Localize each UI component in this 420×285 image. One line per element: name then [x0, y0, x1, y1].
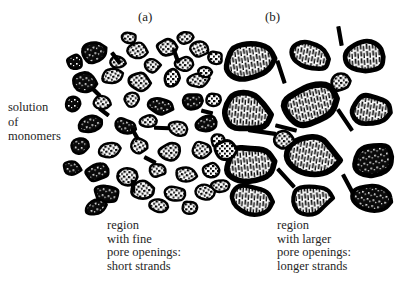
- strand-a-0: [110, 51, 122, 65]
- strand-a-2: [98, 107, 110, 118]
- figure-root: (a) (b) solution of monomers: [0, 0, 420, 285]
- particle-a-26: [117, 167, 138, 186]
- caption-left-line-2: with fine: [107, 233, 181, 247]
- particles-region-a: [62, 31, 230, 216]
- strand-a-7: [91, 87, 102, 98]
- particle-a-8: [186, 72, 210, 90]
- caption-region-a: region with fine pore openings: short st…: [107, 219, 181, 273]
- particle-a-34: [67, 55, 82, 69]
- particle-a-3: [188, 39, 211, 60]
- particle-a-9: [198, 67, 212, 77]
- particle-a-45: [211, 179, 231, 193]
- particle-a-0: [80, 39, 109, 65]
- particle-a-2: [157, 38, 178, 56]
- particle-b-6: [225, 144, 277, 183]
- particle-a-42: [66, 97, 80, 112]
- particle-a-44: [212, 134, 225, 146]
- particle-a-18: [168, 120, 188, 136]
- particle-a-30: [93, 184, 119, 204]
- particle-a-20: [71, 138, 90, 155]
- particle-b-11: [350, 181, 394, 214]
- strand-a-6: [131, 180, 136, 192]
- particle-a-46: [121, 32, 136, 44]
- strand-b-1: [336, 108, 354, 132]
- particle-a-31: [130, 179, 155, 200]
- strand-a-3: [130, 127, 140, 140]
- strands-region-b: [248, 26, 355, 195]
- particle-a-43: [62, 160, 83, 177]
- particle-a-12: [146, 96, 174, 117]
- particle-a-40: [149, 198, 169, 213]
- particle-b-9: [231, 185, 275, 217]
- particle-a-38: [208, 52, 221, 64]
- particle-b-2: [344, 40, 384, 72]
- strand-b-6: [336, 26, 344, 46]
- strand-b-0: [275, 60, 286, 84]
- particle-a-1: [126, 40, 149, 60]
- particle-field: [0, 0, 420, 285]
- particle-a-14: [206, 94, 220, 106]
- side-label-line-1: solution: [8, 100, 61, 115]
- strand-b-5: [341, 173, 355, 194]
- particle-a-24: [192, 141, 213, 160]
- side-label-line-2: of: [8, 115, 61, 130]
- particle-b-5: [351, 94, 393, 127]
- caption-left-line-4: short strands: [107, 260, 181, 274]
- particle-b-0: [223, 40, 277, 81]
- particle-a-5: [100, 66, 124, 85]
- caption-right-line-1: region: [277, 219, 351, 233]
- particle-a-7: [165, 69, 180, 86]
- strand-a-1: [171, 48, 180, 64]
- particle-a-13: [182, 93, 203, 110]
- particle-b-3: [223, 91, 273, 132]
- particle-b-1: [289, 40, 331, 71]
- particle-a-19: [194, 114, 217, 133]
- particle-b-13: [273, 130, 295, 149]
- strand-b-2: [248, 128, 276, 136]
- particle-a-33: [194, 182, 217, 201]
- strand-a-4: [154, 126, 170, 131]
- caption-left-line-3: pore openings:: [107, 246, 181, 260]
- particle-a-10: [93, 95, 112, 111]
- strands-region-a: [91, 48, 214, 192]
- panel-label-b: (b): [265, 10, 280, 24]
- particle-a-23: [158, 142, 181, 161]
- particle-a-17: [139, 115, 157, 128]
- particle-a-4: [72, 71, 98, 93]
- particle-a-32: [164, 186, 186, 202]
- particle-b-10: [292, 184, 334, 216]
- particle-b-4: [281, 81, 341, 129]
- panel-label-a: (a): [138, 10, 152, 24]
- particle-a-22: [130, 137, 150, 155]
- caption-left-line-1: region: [107, 219, 181, 233]
- particle-b-7: [284, 133, 343, 179]
- particle-a-39: [84, 197, 109, 216]
- particle-a-37: [174, 56, 193, 71]
- particle-a-36: [144, 58, 161, 73]
- side-label-solution-of-monomers: solution of monomers: [8, 100, 61, 144]
- caption-right-line-2: with larger: [277, 233, 351, 247]
- particle-a-28: [175, 166, 199, 184]
- particle-a-15: [76, 112, 104, 135]
- strand-b-3: [275, 123, 297, 132]
- particle-a-21: [98, 141, 122, 159]
- particle-a-11: [124, 92, 140, 108]
- particle-a-41: [182, 201, 198, 215]
- particle-b-14: [331, 73, 352, 92]
- strand-a-5: [143, 155, 156, 165]
- caption-region-b: region with larger pore openings: longer…: [277, 219, 351, 273]
- particle-field-svg: [0, 0, 420, 285]
- particle-b-8: [352, 143, 395, 179]
- particle-a-6: [128, 72, 152, 92]
- strand-a-8: [201, 108, 214, 115]
- particles-region-b: [215, 40, 394, 217]
- side-label-line-3: monomers: [8, 129, 61, 144]
- particle-b-12: [215, 141, 237, 160]
- particle-a-27: [149, 163, 166, 178]
- particle-a-25: [84, 162, 110, 183]
- caption-right-line-4: longer strands: [277, 260, 351, 274]
- particle-a-16: [114, 117, 138, 136]
- particle-a-29: [203, 163, 219, 177]
- particle-a-35: [109, 55, 126, 69]
- caption-right-line-3: pore openings:: [277, 246, 351, 260]
